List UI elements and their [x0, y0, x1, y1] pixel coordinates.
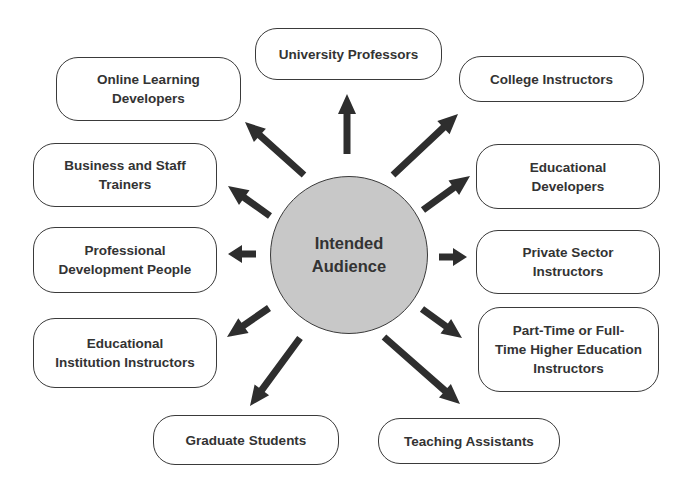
- arrow-to-online-learning-developers-icon: [245, 122, 306, 178]
- node-online-learning-developers: Online Learning Developers: [56, 57, 241, 121]
- arrow-to-part-time-full-time-higher-ed-instructors-icon: [420, 306, 462, 338]
- node-professional-development-people: Professional Development People: [33, 227, 217, 293]
- arrow-to-educational-institution-instructors-icon: [227, 305, 271, 337]
- arrow-to-college-instructors-icon: [391, 114, 458, 178]
- arrow-to-graduate-students-icon: [250, 336, 303, 406]
- arrow-to-business-and-staff-trainers-icon: [228, 186, 272, 219]
- node-part-time-full-time-higher-ed-instructors: Part-Time or Full- Time Higher Education…: [478, 307, 659, 392]
- node-educational-developers: Educational Developers: [476, 144, 660, 209]
- arrow-to-educational-developers-icon: [421, 176, 470, 213]
- node-graduate-students: Graduate Students: [153, 415, 339, 465]
- node-educational-institution-instructors: Educational Institution Instructors: [33, 318, 217, 388]
- arrow-to-university-professors-icon: [338, 94, 356, 154]
- node-college-instructors: College Instructors: [459, 56, 644, 102]
- node-teaching-assistants: Teaching Assistants: [378, 418, 560, 464]
- node-private-sector-instructors: Private Sector Instructors: [476, 230, 660, 294]
- arrow-to-private-sector-instructors-icon: [439, 248, 467, 266]
- node-university-professors: University Professors: [255, 28, 442, 80]
- intended-audience-diagram: University Professors College Instructor…: [0, 0, 692, 493]
- arrow-to-professional-development-people-icon: [228, 245, 256, 263]
- center-hub-intended-audience: Intended Audience: [270, 176, 428, 334]
- node-business-and-staff-trainers: Business and Staff Trainers: [33, 143, 217, 207]
- arrow-to-teaching-assistants-icon: [382, 334, 460, 404]
